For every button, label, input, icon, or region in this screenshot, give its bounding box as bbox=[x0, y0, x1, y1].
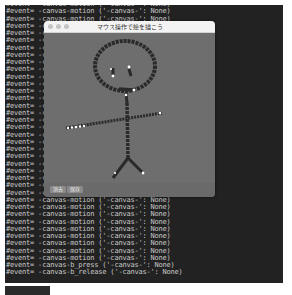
drawing-app-window[interactable]: マウス操作で絵を描こう bbox=[44, 21, 215, 197]
window-titlebar[interactable]: マウス操作で絵を描こう bbox=[44, 21, 215, 33]
bottom-bar bbox=[5, 286, 50, 295]
drawing-canvas[interactable] bbox=[44, 33, 215, 183]
window-title: マウス操作で絵を描こう bbox=[44, 21, 215, 32]
clear-button[interactable]: 消去 bbox=[50, 186, 66, 193]
button-row: 消去 保存 bbox=[44, 183, 215, 197]
save-button[interactable]: 保存 bbox=[67, 186, 83, 193]
stick-figure-drawing bbox=[44, 33, 215, 183]
terminal-line: #event= -canvas-b_release ('-canvas-': N… bbox=[6, 269, 183, 276]
